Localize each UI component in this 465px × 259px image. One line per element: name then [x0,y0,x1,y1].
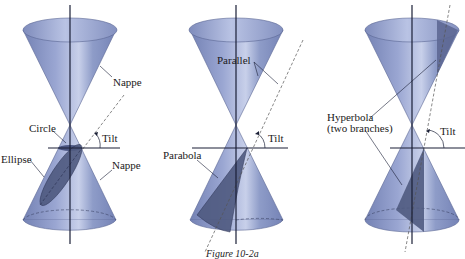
label-tilt: Tilt [268,133,284,144]
label-nappe-bottom: Nappe [112,160,141,171]
label-parabola: Parabola [163,150,201,161]
label-tilt: Tilt [440,126,456,137]
label-parallel: Parallel [217,55,251,66]
label-hyperbola-line2: (two branches) [327,123,393,134]
conic-sections-diagram [0,0,465,259]
label-nappe-top: Nappe [113,77,142,88]
label-circle: Circle [29,123,56,134]
figure-caption: Figure 10-2a [206,248,259,259]
label-ellipse: Ellipse [1,154,32,165]
panel-parabola [189,5,303,252]
label-tilt: Tilt [102,133,118,144]
